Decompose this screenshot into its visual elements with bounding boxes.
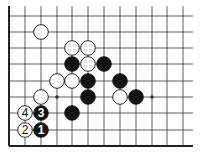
white-stone <box>65 74 80 89</box>
black-stone-disc <box>97 57 112 72</box>
black-stone-disc <box>65 106 80 121</box>
move-number-label: 2 <box>22 123 29 137</box>
black-stone <box>97 57 112 72</box>
star-point <box>55 95 59 99</box>
black-stone-disc <box>65 57 80 72</box>
black-stone-3: 3 <box>34 106 49 121</box>
black-stone-disc <box>81 90 96 105</box>
black-stone <box>65 106 80 121</box>
white-stone <box>113 90 128 105</box>
white-stone-2: 2 <box>18 123 33 138</box>
black-stone <box>81 90 96 105</box>
white-stone <box>81 41 96 56</box>
white-stone-disc <box>34 25 49 40</box>
white-stone <box>34 25 49 40</box>
black-stone <box>65 57 80 72</box>
black-stone <box>129 90 144 105</box>
black-stone-disc <box>81 74 96 89</box>
black-stone <box>81 74 96 89</box>
white-stone-disc <box>81 57 96 72</box>
black-stone-1: 1 <box>34 123 49 138</box>
black-stone <box>113 74 128 89</box>
star-point <box>150 95 154 99</box>
white-stone <box>34 90 49 105</box>
white-stone-disc <box>81 41 96 56</box>
white-stone-disc <box>65 74 80 89</box>
black-stone-disc <box>129 90 144 105</box>
white-stone-disc <box>34 90 49 105</box>
move-number-label: 3 <box>38 106 45 120</box>
move-number-label: 4 <box>22 106 29 120</box>
white-stone-disc <box>113 90 128 105</box>
go-board: 4321 <box>0 0 200 160</box>
white-stone-4: 4 <box>18 106 33 121</box>
move-number-label: 1 <box>38 123 45 137</box>
black-stone-disc <box>113 74 128 89</box>
white-stone-disc <box>65 41 80 56</box>
white-stone-disc <box>50 74 65 89</box>
white-stone <box>50 74 65 89</box>
white-stone <box>65 41 80 56</box>
white-stone <box>81 57 96 72</box>
